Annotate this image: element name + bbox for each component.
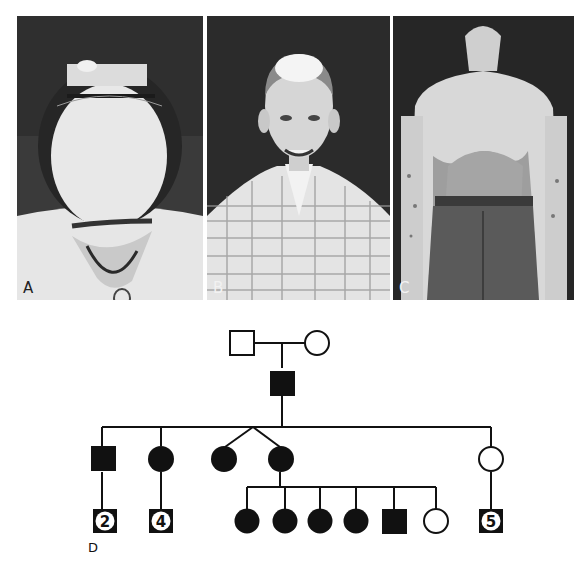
pedigree-female-unaffected-IV6 xyxy=(424,509,448,533)
svg-text:4: 4 xyxy=(156,513,166,531)
svg-text:2: 2 xyxy=(100,513,110,531)
pedigree-sibship-count-5: 5 xyxy=(479,509,503,533)
photo-panel-b: B xyxy=(207,16,390,300)
pedigree-female-affected-IV1 xyxy=(235,509,260,534)
photo-boy-portrait xyxy=(207,16,390,300)
photo-back-view xyxy=(393,16,574,300)
panel-label-d: D xyxy=(88,540,98,555)
pedigree-male-affected-IV5 xyxy=(382,509,407,534)
pedigree-male-affected-II1 xyxy=(270,371,295,396)
panel-label-a: A xyxy=(23,281,33,296)
pedigree-female-affected-twin-III3 xyxy=(211,446,237,472)
pedigree-sibship-count-2: 2 xyxy=(93,509,117,533)
pedigree-female-affected-IV2 xyxy=(273,509,298,534)
pedigree-female-affected-IV4 xyxy=(344,509,369,534)
photo-panel-c: C xyxy=(393,16,574,300)
pedigree-sibship-count-4: 4 xyxy=(149,509,173,533)
pedigree-female-unaffected-III5 xyxy=(479,447,503,471)
panel-label-b: B xyxy=(213,281,223,296)
pedigree-female-affected-III2 xyxy=(148,446,174,472)
pedigree-female-affected-IV3 xyxy=(308,509,333,534)
photo-panel-a: A xyxy=(17,16,203,300)
photo-head-top-view xyxy=(17,16,203,300)
svg-text:5: 5 xyxy=(486,513,496,531)
pedigree-female-affected-twin-III4 xyxy=(268,446,294,472)
pedigree-female-unaffected-I2 xyxy=(305,331,329,355)
pedigree-male-unaffected-I1 xyxy=(230,331,254,355)
panel-label-c: C xyxy=(399,281,409,296)
pedigree-male-affected-III1 xyxy=(91,446,116,471)
pedigree-chart: 2 4 5 xyxy=(0,300,587,563)
